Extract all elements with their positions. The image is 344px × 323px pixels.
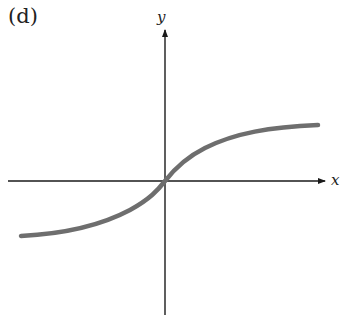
graph-figure — [0, 0, 344, 323]
